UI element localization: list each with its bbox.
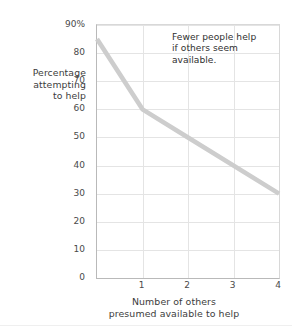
x-axis-tick-label: 4 [265,280,291,290]
y-axis-tick-label: 60 [41,104,85,113]
annotation-line-1: Fewer people help [172,32,284,43]
chart-figure: Percentage attempting to help 0102030405… [0,0,292,332]
annotation-line-2: if others seem [172,43,284,54]
y-axis-tick-label: 50 [41,132,85,141]
chart-annotation: Fewer people help if others seem availab… [172,32,284,66]
y-axis-tick-label: 70 [41,76,85,85]
x-axis-tick-label: 1 [129,280,155,290]
y-axis-tick-label: 40 [41,160,85,169]
y-axis-tick-label: 10 [41,244,85,253]
x-axis-title-line-2: presumed available to help [60,308,288,320]
y-axis-tick-label: 0 [41,273,85,282]
y-axis-tick-label: 30 [41,188,85,197]
y-axis-tick-label: 80 [41,48,85,57]
annotation-line-3: available. [172,55,284,66]
x-axis-tick-label: 2 [174,280,200,290]
y-axis-tick-label: 90% [41,20,85,29]
x-axis-tick-labels: 1234 [96,280,278,292]
x-axis-title-line-1: Number of others [60,296,288,308]
x-axis-title: Number of others presumed available to h… [60,296,288,320]
bottom-divider [0,325,292,326]
x-axis-tick-label: 3 [220,280,246,290]
y-axis-tick-label: 20 [41,216,85,225]
y-axis-tick-labels: 0102030405060708090% [42,24,90,277]
